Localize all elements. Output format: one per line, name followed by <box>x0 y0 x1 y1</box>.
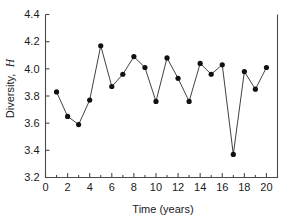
data-point <box>209 72 214 77</box>
data-point <box>198 61 203 66</box>
y-tick-label: 4.0 <box>24 63 39 75</box>
x-tick-label: 4 <box>87 181 93 193</box>
chart-figure: 3.23.43.63.84.04.24.4 02468101214161820 … <box>0 0 291 219</box>
data-point <box>142 65 147 70</box>
x-tick-label: 0 <box>42 181 48 193</box>
y-axis-title-text: Diversity, <box>4 74 16 118</box>
x-tick-label: 18 <box>238 181 250 193</box>
y-tick-label: 3.6 <box>24 117 39 129</box>
data-point <box>164 55 169 60</box>
y-axis-title-symbol: H <box>4 58 16 68</box>
x-tick-label: 6 <box>109 181 115 193</box>
y-tick-label: 3.8 <box>24 90 39 102</box>
data-point <box>220 62 225 67</box>
data-point <box>153 99 158 104</box>
data-point <box>76 122 81 127</box>
data-point <box>264 65 269 70</box>
x-tick-label: 16 <box>216 181 228 193</box>
data-point <box>65 114 70 119</box>
x-tick-label: 8 <box>131 181 137 193</box>
x-tick-label: 2 <box>65 181 71 193</box>
data-point <box>131 54 136 59</box>
data-point <box>242 69 247 74</box>
x-tick-label: 10 <box>150 181 162 193</box>
diversity-time-line-chart: 3.23.43.63.84.04.24.4 02468101214161820 … <box>0 0 291 219</box>
x-tick-label: 14 <box>194 181 206 193</box>
x-axis-title: Time (years) <box>132 203 193 215</box>
data-point <box>231 152 236 157</box>
y-axis-title: Diversity, H <box>4 58 16 118</box>
y-tick-label: 3.4 <box>24 144 39 156</box>
data-point <box>98 43 103 48</box>
y-tick-label: 4.2 <box>24 35 39 47</box>
y-tick-label: 3.2 <box>24 171 39 183</box>
data-point <box>120 72 125 77</box>
x-tick-label: 20 <box>260 181 272 193</box>
data-point <box>109 84 114 89</box>
data-point <box>187 99 192 104</box>
data-point <box>253 87 258 92</box>
y-tick-label: 4.4 <box>24 8 39 20</box>
data-point <box>87 97 92 102</box>
data-point <box>175 76 180 81</box>
data-point <box>54 89 59 94</box>
x-tick-label: 12 <box>172 181 184 193</box>
